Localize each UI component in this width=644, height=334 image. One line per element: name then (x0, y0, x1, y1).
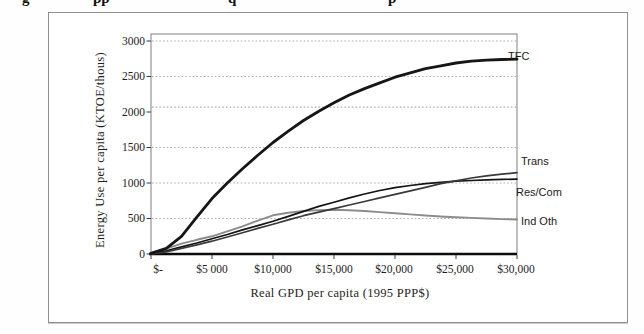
x-tick-label-15000: $15,000 (303, 263, 365, 276)
curve-tfc (151, 59, 517, 253)
y-tick-label-0: 0 (99, 248, 145, 261)
x-tick-label-10000: $10,000 (242, 263, 304, 276)
y-tick-label-500: 500 (99, 212, 145, 225)
y-tick-label-2000: 2000 (99, 106, 145, 119)
y-tick-label-2500: 2500 (99, 70, 145, 83)
curve-trans (151, 173, 517, 254)
y-tick-label-3000: 3000 (99, 35, 145, 48)
x-tick-label-0: $- (127, 263, 189, 276)
x-tick-label-20000: $20,000 (363, 263, 425, 276)
y-tick-label-1500: 1500 (99, 141, 145, 154)
x-tick-label-30000: $30,000 (485, 263, 547, 276)
x-axis-title: Real GPD per capita (1995 PPP$) (200, 286, 480, 301)
x-tick-label-25000: $25,000 (424, 263, 486, 276)
series-label-trans: Trans (521, 155, 549, 168)
series-label-indoth: Ind Oth (521, 215, 557, 228)
x-tick-label-5000: $5 000 (181, 263, 243, 276)
curve-ind-oth (151, 210, 517, 253)
y-tick-label-1000: 1000 (99, 177, 145, 190)
plot-border (151, 34, 517, 254)
series-label-rescom: Res/Com (516, 186, 562, 199)
scanned-energy-chart-page: g pp q p Energy Use per capita (KTOE/tho… (0, 0, 644, 334)
series-label-tfc: TFC (508, 50, 529, 63)
